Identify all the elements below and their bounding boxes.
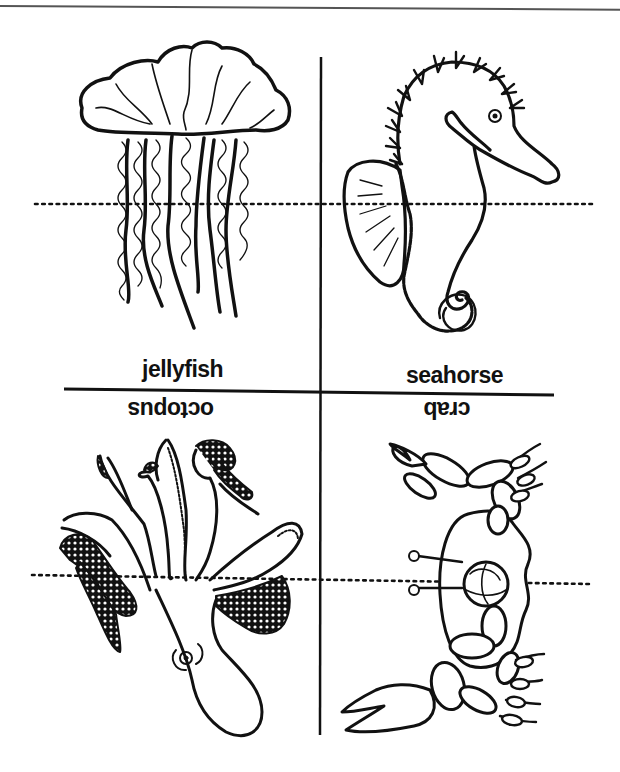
activity-sheet: jellyfish	[0, 0, 620, 772]
crab-illustration	[0, 0, 620, 772]
label-crab: crab	[424, 398, 471, 421]
